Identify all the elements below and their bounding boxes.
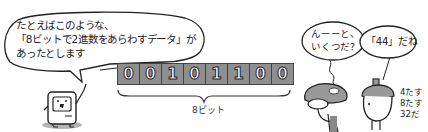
brace-label: 8ビット: [192, 103, 225, 116]
bit-cell: 1: [228, 64, 250, 84]
bit-cell: 1: [206, 64, 228, 84]
computer-bubble-line-1: たとえばこのような、: [16, 18, 196, 32]
acorn-character: [362, 79, 394, 130]
bit-row: 0 0 1 0 1 1 0 0: [117, 63, 294, 85]
note-line-1: 4たす: [400, 87, 423, 98]
bit-cell: 0: [140, 64, 162, 84]
computer-bubble-line-3: あったとします: [16, 46, 196, 60]
acorn-bubble-text: 「44」だね: [366, 35, 418, 49]
computer-bubble-line-2: 「8ビットで2進数をあらわすデータ」が: [16, 32, 196, 46]
mushroom-bubble-text: んーーと、 いくつだ？: [311, 27, 360, 53]
acorn-calculation-note: 4たす 8たす 32だ: [400, 87, 423, 120]
bit-cell: 0: [272, 64, 293, 84]
bit-cell: 0: [118, 64, 140, 84]
note-line-2: 8たす: [400, 98, 423, 109]
note-line-3: 32だ: [400, 109, 423, 120]
bit-cell: 0: [250, 64, 272, 84]
mushroom-bubble-line-1: んーーと、: [311, 27, 360, 40]
brace: [118, 90, 290, 102]
bit-cell: 1: [162, 64, 184, 84]
mushroom-bubble-line-2: いくつだ？: [311, 40, 360, 53]
mushroom-character: [305, 84, 347, 132]
bit-cell: 0: [184, 64, 206, 84]
computer-bubble-text: たとえばこのような、 「8ビットで2進数をあらわすデータ」が あったとします: [16, 18, 196, 60]
computer-character: [42, 84, 86, 129]
